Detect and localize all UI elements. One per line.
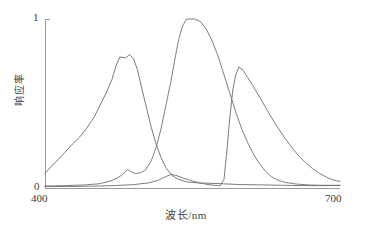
y-axis-title: 响应率 bbox=[11, 60, 26, 120]
curve-series-group bbox=[45, 19, 340, 187]
spectral-response-plot bbox=[0, 0, 372, 229]
curve-green-channel-response bbox=[45, 19, 340, 186]
x-axis-title: 波长/nm bbox=[0, 206, 372, 222]
y-axis-max-tick-label: 1 bbox=[33, 11, 39, 23]
y-axis-zero-tick-label: 0 bbox=[34, 180, 40, 192]
curve-blue-channel-response bbox=[45, 54, 340, 185]
axes bbox=[45, 19, 340, 188]
chart-figure: 1 0 400 700 响应率 波长/nm bbox=[0, 0, 372, 229]
curve-red-channel-response bbox=[45, 67, 340, 186]
x-axis-min-tick-label: 400 bbox=[31, 192, 48, 204]
x-axis-max-tick-label: 700 bbox=[325, 192, 342, 204]
